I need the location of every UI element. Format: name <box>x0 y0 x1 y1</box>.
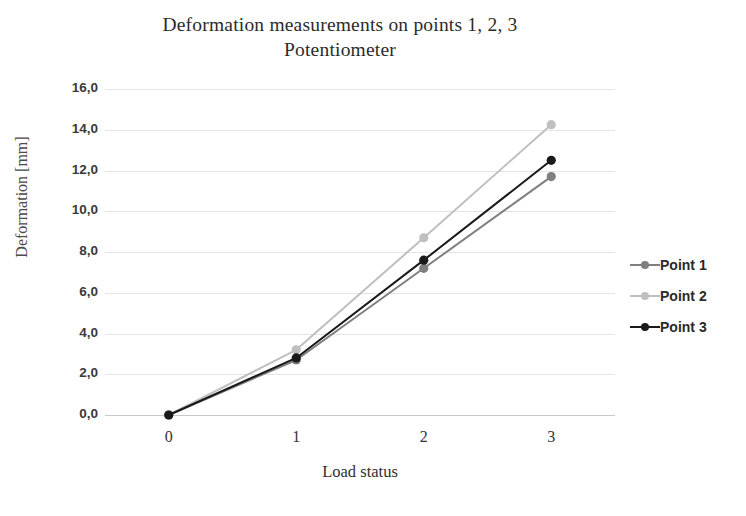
legend-label: Point 1 <box>660 257 707 273</box>
x-axis-tick-labels: 0123 <box>105 428 615 454</box>
x-tick-label: 3 <box>521 428 581 446</box>
legend-label: Point 2 <box>660 288 707 304</box>
x-tick-label: 0 <box>139 428 199 446</box>
x-tick-label: 2 <box>394 428 454 446</box>
legend-item[interactable]: Point 2 <box>630 280 740 311</box>
data-point-marker <box>419 233 428 242</box>
legend-marker-dot <box>641 261 649 269</box>
x-axis-title: Load status <box>105 462 615 482</box>
legend-item[interactable]: Point 1 <box>630 249 740 280</box>
legend-swatch-icon <box>630 320 660 334</box>
chart-legend: Point 1Point 2Point 3 <box>630 249 740 342</box>
data-point-marker <box>164 410 173 419</box>
data-point-marker <box>547 156 556 165</box>
chart-container: Deformation measurements on points 1, 2,… <box>0 0 746 516</box>
data-point-marker <box>547 120 556 129</box>
series-line <box>169 125 552 415</box>
legend-marker-dot <box>641 323 649 331</box>
data-point-marker <box>292 345 301 354</box>
data-point-marker <box>292 353 301 362</box>
series-line <box>169 160 552 415</box>
data-point-marker <box>419 264 428 273</box>
series-point-1 <box>164 172 556 420</box>
data-point-marker <box>547 172 556 181</box>
legend-marker-dot <box>641 292 649 300</box>
legend-label: Point 3 <box>660 319 707 335</box>
series-point-3 <box>164 156 556 420</box>
series-point-2 <box>164 120 556 420</box>
legend-swatch-icon <box>630 258 660 272</box>
x-tick-label: 1 <box>266 428 326 446</box>
data-point-marker <box>419 256 428 265</box>
legend-item[interactable]: Point 3 <box>630 311 740 342</box>
legend-swatch-icon <box>630 289 660 303</box>
series-line <box>169 177 552 415</box>
